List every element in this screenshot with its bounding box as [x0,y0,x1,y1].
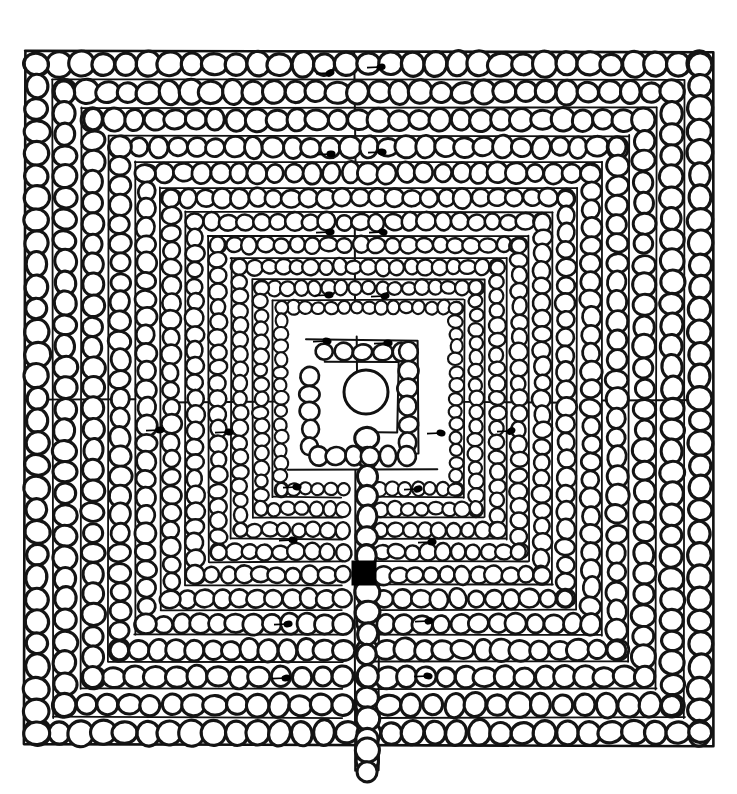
stone chain wall [659,269,686,296]
stone chain wall [405,545,421,561]
stone chain wall [633,171,653,193]
turn-dot-low-right-1-tail [418,542,432,543]
stone chain wall [534,80,557,103]
stone chain wall [489,492,504,508]
stone chain wall [492,80,517,103]
labyrinth-drawing [0,0,737,794]
stone chain wall [136,434,157,452]
stone chain wall [518,566,534,583]
stone chain wall [556,310,575,329]
stone chain wall [303,163,322,185]
stone chain wall [108,155,131,176]
stone chain wall [168,137,189,157]
stone chain wall [25,497,48,521]
stone chain wall [387,281,402,295]
turn-dot-left-mid-1-tail [146,430,160,431]
stone chain wall [449,457,463,469]
stone chain wall [550,136,570,156]
labyrinth centre [344,370,388,414]
stone chain wall [413,161,434,183]
stone chain wall [25,298,48,320]
stone chain wall [206,666,229,686]
stone chain wall [534,374,551,391]
stone chain wall [633,213,657,235]
stone chain wall [531,485,551,504]
stone chain wall [416,212,436,231]
labyrinth path [656,107,657,689]
stone chain wall [360,259,377,275]
stone chain wall [607,408,626,429]
stone chain wall [212,188,231,208]
stone chain wall [556,721,579,746]
stone chain wall [393,589,412,608]
stone chain wall [631,108,655,132]
stone chain wall [486,694,508,716]
stone chain wall [581,470,599,489]
stone chain wall [134,521,158,545]
stone chain wall [607,330,627,351]
stone chain wall [137,197,156,219]
stone chain wall [599,54,622,76]
stone chain wall [422,567,439,584]
labyrinth path [185,212,552,213]
stone chain wall [285,568,301,584]
labyrinth-figure [0,0,737,794]
stone chain wall [643,720,668,746]
stone chain wall [332,613,355,636]
stone chain wall [135,324,155,345]
stone chain wall [266,566,286,584]
stone chain wall [149,136,168,158]
stone chain wall [244,719,271,747]
stone chain wall [81,543,105,562]
turn-dot-inner-left-1-tail [313,341,327,342]
stone chain wall [468,719,491,745]
stone chain wall [689,184,712,210]
stone chain wall [159,590,182,610]
stone chain wall [320,544,335,561]
stone chain wall [25,408,48,433]
stone chain wall [266,53,293,77]
stone chain wall [608,563,626,582]
stone chain wall [687,586,712,612]
stone chain wall [582,416,600,436]
stone chain wall [489,405,507,421]
stone chain wall [581,453,601,471]
stone chain wall [82,522,104,544]
stone chain wall [311,302,325,315]
stone chain wall [411,590,431,607]
stone chain wall [555,51,578,76]
stone chain wall [422,693,444,715]
stone chain wall [53,186,78,209]
stone chain wall [558,449,576,468]
turn-dot-low-left-3-tail [272,678,286,679]
stone chain wall [687,699,712,722]
stone chain wall [135,271,157,290]
stone chain wall [210,511,228,529]
stone chain wall [357,53,380,74]
stone chain wall [488,361,506,376]
turn-dot-top-right-1-tail [367,67,381,68]
stone chain wall [381,723,402,745]
stone chain wall [187,665,208,688]
stone chain wall [556,257,578,277]
stone chain wall [529,640,550,661]
stone chain wall [632,399,656,421]
entrance corridor [356,664,379,688]
stone chain wall [556,415,575,434]
stone chain wall [254,474,268,488]
stone chain wall [360,447,380,466]
turn-dot-low-right-2-tail [415,621,429,622]
stone chain wall [488,390,505,405]
stone chain wall [262,80,286,104]
stone chain wall [82,317,103,337]
stone chain wall [467,433,482,446]
stone chain wall [606,154,630,177]
stone chain wall [331,665,355,688]
stone chain wall [267,503,280,517]
stone chain wall [350,301,363,314]
stone chain wall [562,164,581,183]
turn-dot-top-right-4-tail [371,296,385,297]
stone chain wall [135,614,156,634]
stone chain wall [26,251,47,276]
stone chain wall [273,390,289,405]
